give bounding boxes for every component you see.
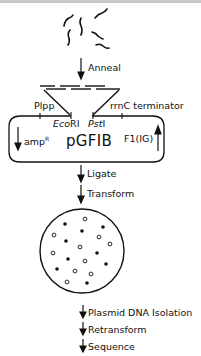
ampr-sup: R — [45, 135, 49, 142]
label-psti: PstI — [88, 118, 105, 129]
arrow-down-icon — [80, 305, 86, 352]
psti-rest: I — [102, 118, 105, 129]
ecori-rest: RI — [70, 118, 79, 129]
step-ligate: Ligate — [87, 168, 116, 179]
step-sequence: Sequence — [88, 341, 135, 352]
step-transform: Transform — [87, 188, 134, 199]
label-terminator: rrnC terminator — [110, 100, 184, 111]
label-f1: F1(IG) — [124, 133, 153, 144]
step-retransform: Retransform — [88, 324, 147, 335]
colonies-filled — [55, 222, 108, 285]
psti-italic: Pst — [88, 118, 102, 129]
ecori-italic: Eco — [53, 118, 70, 129]
label-ecori: EcoRI — [53, 118, 79, 129]
label-ampr: ampR — [24, 133, 49, 147]
plasmid-name: pGFIB — [66, 133, 112, 149]
arrow-down-icon — [78, 165, 84, 203]
arrow-down-icon — [78, 58, 84, 79]
f1-arrow-up-icon — [155, 126, 161, 151]
oligo-squiggles-icon — [64, 9, 109, 48]
ampr-text: amp — [24, 136, 45, 147]
label-promoter: Plpp — [34, 100, 54, 111]
step-anneal: Anneal — [88, 62, 121, 73]
amp-arrow-down-icon — [15, 127, 21, 150]
step-isolation: Plasmid DNA Isolation — [88, 307, 192, 318]
